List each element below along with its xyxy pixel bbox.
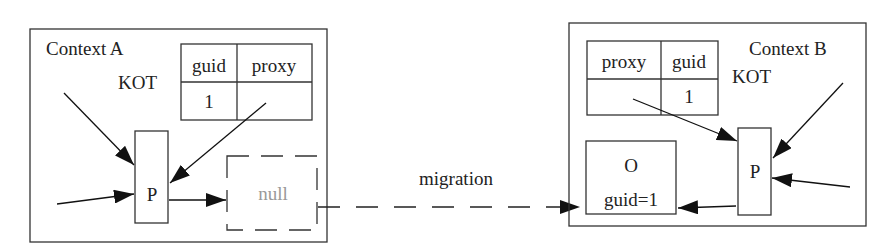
object-name: O <box>624 155 638 176</box>
context-a-box: Context A KOT guid proxy 1 P null <box>30 29 327 242</box>
migration-label: migration <box>419 168 493 189</box>
table-a-cell-guid: 1 <box>204 91 214 112</box>
context-a-proxy-label: P <box>147 184 158 205</box>
context-a-label: Context A <box>46 38 124 59</box>
context-b-object-node: O guid=1 <box>586 141 676 214</box>
context-b-kot-label: KOT <box>732 66 771 87</box>
object-guid: guid=1 <box>604 189 658 210</box>
arrow-a-table-to-p <box>170 103 266 183</box>
table-b-cell-guid: 1 <box>684 86 694 107</box>
table-b-header-guid: guid <box>672 51 706 72</box>
context-b-box: Context B KOT proxy guid 1 O guid=1 P <box>569 23 866 226</box>
context-a-kot-table: guid proxy 1 <box>181 44 312 120</box>
context-a-kot-label: KOT <box>118 72 157 93</box>
arrow-b-p-to-object <box>678 206 736 208</box>
table-b-header-proxy: proxy <box>602 51 647 72</box>
arrow-a-top-left <box>64 93 134 165</box>
null-label: null <box>258 183 288 204</box>
arrow-b-right <box>772 178 850 187</box>
migration-edge: migration <box>318 168 580 207</box>
context-b-proxy-node: P <box>738 128 771 215</box>
context-a-null-node: null <box>227 156 317 230</box>
migration-diagram: Context A KOT guid proxy 1 P null migrat… <box>0 0 893 249</box>
context-b-label: Context B <box>749 38 827 59</box>
arrow-a-left <box>57 194 134 204</box>
context-a-proxy-node: P <box>135 131 168 223</box>
context-b-kot-table: proxy guid 1 <box>587 41 718 115</box>
context-b-proxy-label: P <box>750 161 761 182</box>
table-a-header-guid: guid <box>192 55 226 76</box>
table-a-header-proxy: proxy <box>252 55 297 76</box>
arrow-b-top-right <box>773 83 843 158</box>
